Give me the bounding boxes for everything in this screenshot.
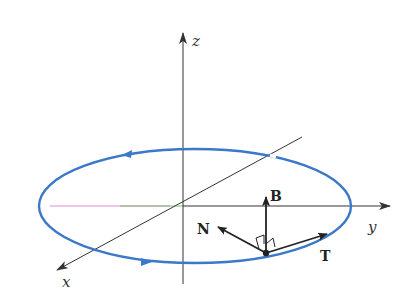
helix-curve: [39, 149, 351, 266]
curve-point: [263, 250, 269, 256]
y-axis-label: y: [367, 218, 377, 236]
binormal-label: B: [270, 188, 282, 204]
frenet-frame-diagram: z y x B N T: [0, 0, 413, 300]
normal-label: N: [197, 221, 210, 237]
z-axis-label: z: [191, 32, 200, 50]
x-axis-label: x: [62, 273, 71, 291]
tangent-label: T: [320, 248, 331, 264]
normal-vector: [218, 227, 266, 253]
